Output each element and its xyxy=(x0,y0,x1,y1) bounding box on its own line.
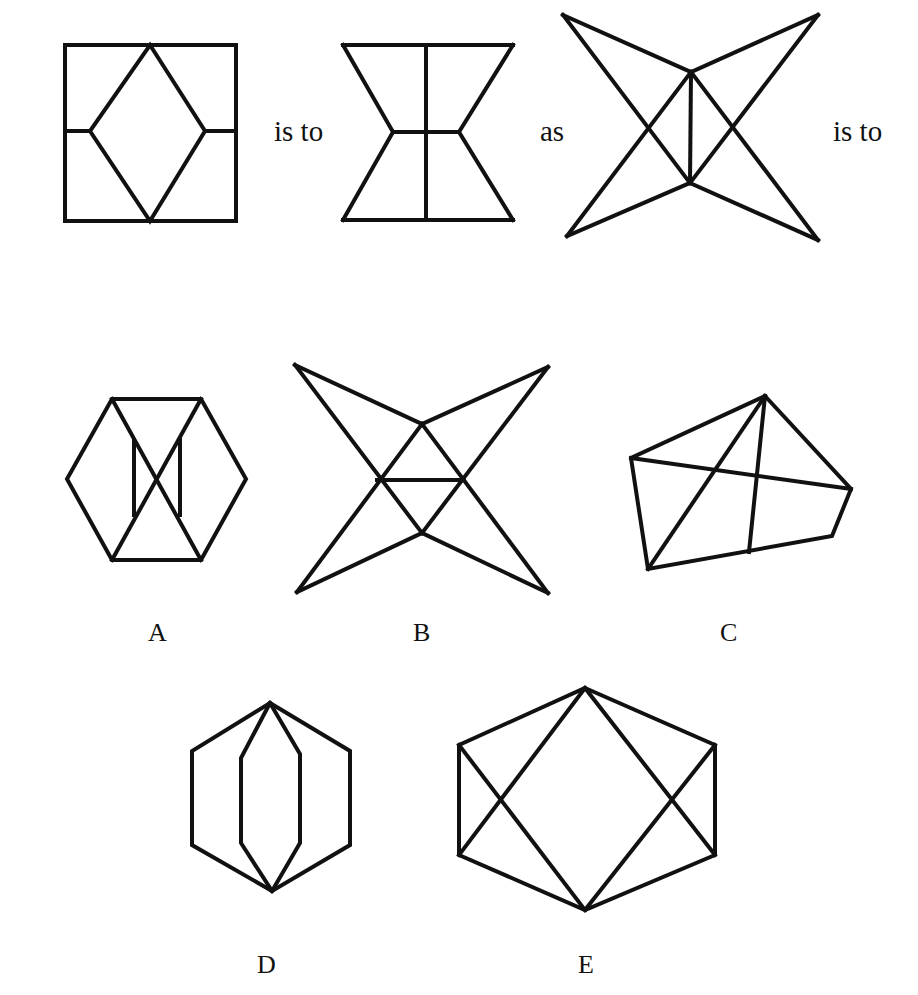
analogy-diagram xyxy=(0,0,918,995)
option-b-figure[interactable] xyxy=(295,365,548,593)
connector-as: as xyxy=(540,115,564,148)
option-c-label[interactable]: C xyxy=(720,618,737,648)
option-c-figure[interactable] xyxy=(631,396,851,569)
figure-1-square-diamond xyxy=(65,45,236,221)
connector-is-to-2: is to xyxy=(833,115,882,148)
option-a-figure[interactable] xyxy=(67,399,246,560)
option-e-figure[interactable] xyxy=(459,688,715,910)
connector-is-to-1: is to xyxy=(274,115,323,148)
figure-3-star xyxy=(563,15,818,240)
option-b-label[interactable]: B xyxy=(413,618,430,648)
option-a-label[interactable]: A xyxy=(148,618,167,648)
option-d-figure[interactable] xyxy=(192,703,350,891)
option-e-label[interactable]: E xyxy=(578,950,594,980)
option-d-label[interactable]: D xyxy=(257,950,276,980)
figure-2-hourglass xyxy=(343,45,513,220)
